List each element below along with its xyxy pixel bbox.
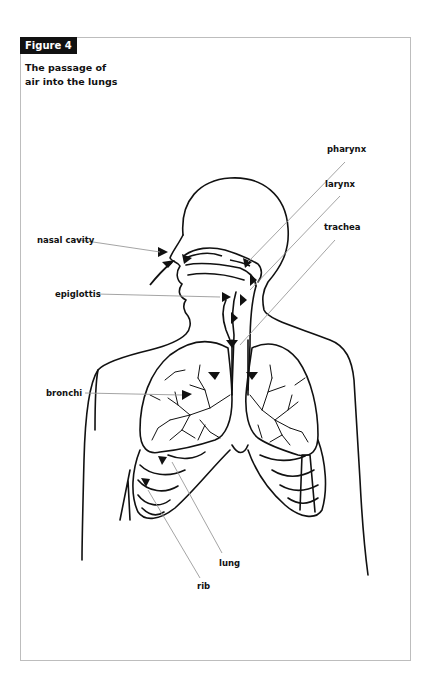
leader-epiglottis: [97, 294, 220, 297]
label-rib: rib: [197, 581, 210, 591]
label-pharynx: pharynx: [327, 144, 366, 154]
label-bronchi: bronchi: [46, 388, 82, 398]
label-lung: lung: [219, 558, 240, 568]
face-outline: [82, 235, 190, 560]
right-lung: [246, 344, 318, 456]
label-trachea: trachea: [324, 222, 361, 232]
head-outline: [183, 178, 368, 575]
label-larynx: larynx: [325, 179, 355, 189]
leader-pharynx: [248, 162, 345, 262]
right-bronchial-tree: [250, 365, 308, 445]
leader-rib: [148, 490, 200, 578]
leader-bronchi: [85, 393, 182, 395]
left-bronchial-tree: [150, 365, 230, 440]
label-nasal-cavity: nasal cavity: [37, 235, 94, 245]
trachea: [232, 340, 248, 395]
leader-lung: [172, 462, 222, 553]
leader-larynx: [250, 196, 340, 290]
respiratory-system-illustration: [0, 0, 434, 677]
inhale-arrow-line: [150, 262, 172, 285]
label-epiglottis: epiglottis: [55, 289, 101, 299]
left-ribs: [120, 450, 230, 520]
